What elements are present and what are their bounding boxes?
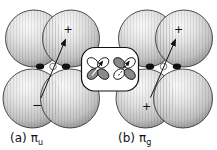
figure-svg: + − (a)πu + + (b)πg: [0, 0, 217, 150]
molecular-orbital-figure: + − (a)πu + + (b)πg: [0, 0, 217, 150]
panel-a-caption: (a)πu: [10, 131, 43, 147]
panel-b-top-phase-sign: +: [174, 23, 183, 36]
panel-a-bottom-phase-sign: −: [32, 98, 42, 112]
panel-b-bottom-phase-sign: +: [142, 100, 151, 113]
panel-b-caption: (b)πg: [118, 131, 151, 147]
phase-inset: [82, 48, 139, 92]
panel-b-left-nucleus-dot-icon: [146, 64, 154, 70]
panel-a-top-phase-sign: +: [63, 23, 72, 36]
panel-a-left-nucleus-dot-icon: [36, 64, 44, 70]
panel-a-right-nucleus-dot-icon: [62, 64, 70, 70]
panel-b-right-nucleus-dot-icon: [173, 64, 181, 70]
